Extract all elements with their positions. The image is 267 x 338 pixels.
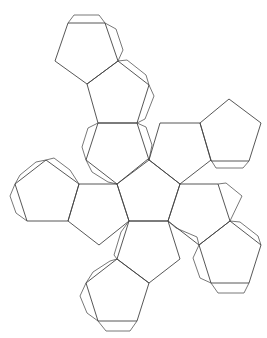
glue-tab-tab-far-left-left	[10, 184, 27, 221]
glue-tab-tab-ul2-right-lower	[137, 85, 154, 123]
pentagon-face-far-right	[200, 99, 261, 161]
glue-tab-tab-bottom2-left	[80, 283, 98, 321]
glue-tab-tab-top-right	[105, 23, 123, 61]
pentagon-face-right-1	[168, 184, 230, 245]
pentagon-face-lower-right	[199, 221, 261, 283]
pentagon-face-bottom-1	[117, 221, 180, 283]
glue-tab-tab-ul1-left	[82, 123, 98, 160]
pentagon-face-upper-right-1	[149, 123, 211, 184]
glue-tab-tab-bottom2-bottom	[98, 321, 137, 331]
glue-tab-tab-lower-right-bottom	[211, 283, 249, 293]
pentagon-faces	[15, 23, 261, 321]
pentagon-face-upper-left-1	[86, 123, 149, 184]
pentagon-face-bottom-2	[86, 259, 149, 321]
dodecahedron-net-diagram	[0, 0, 267, 338]
glue-tab-tab-lower-right-left	[193, 245, 211, 283]
glue-tabs	[10, 15, 261, 331]
pentagon-face-top	[55, 23, 118, 84]
glue-tab-tab-right-top	[218, 183, 242, 221]
glue-tab-tab-top	[68, 15, 105, 23]
